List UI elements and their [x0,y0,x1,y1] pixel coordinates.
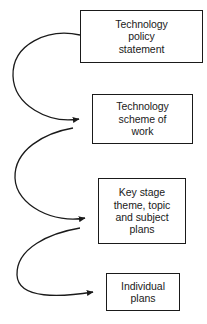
node-policy-statement-label: Technology policy statement [112,18,171,55]
node-stage-plans-label: Key stage theme, topic and subject plans [111,186,174,236]
node-scheme-of-work: Technology scheme of work [92,94,193,144]
node-scheme-of-work-label: Technology scheme of work [113,100,172,137]
connector-policy-to-scheme [13,33,80,119]
flow-diagram: Technology policy statement Technology s… [0,0,207,324]
node-individual-plans-label: Individual plans [118,280,168,305]
connector-scheme-to-stage [15,128,85,219]
connector-stage-to-individual [17,228,93,295]
node-stage-plans: Key stage theme, topic and subject plans [98,178,186,244]
node-policy-statement: Technology policy statement [80,10,203,63]
node-individual-plans: Individual plans [106,273,180,311]
